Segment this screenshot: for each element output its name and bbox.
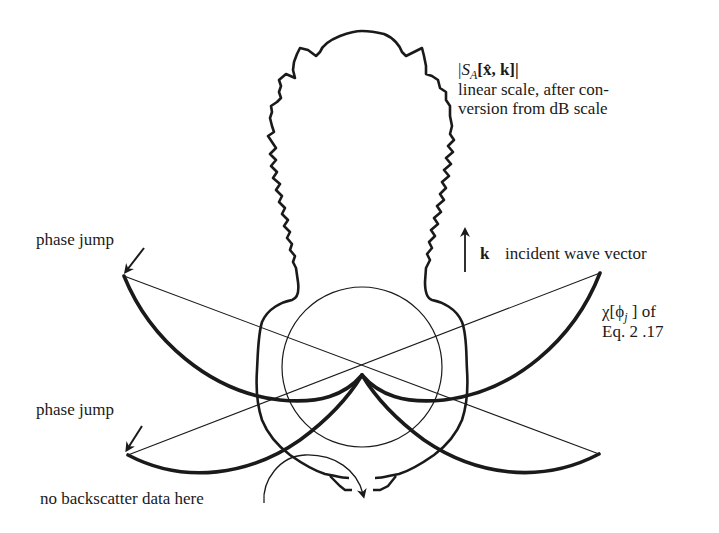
magnitude-args: [x̂, k]| <box>477 60 519 79</box>
chi-curve-upper-right <box>362 273 600 401</box>
chi-label-line2: Eq. 2 .17 <box>602 322 663 341</box>
phase-jump-lower-label: phase jump <box>36 400 114 419</box>
chi-curve-lower-right <box>362 375 599 473</box>
phase-jump-upper-arrow <box>127 248 144 270</box>
k-symbol: k <box>480 244 489 263</box>
no-backscatter-label: no backscatter data here <box>40 489 204 508</box>
reference-circle <box>282 287 442 447</box>
scattering-magnitude-lobe <box>257 31 468 478</box>
chi-phi: χ[ϕ <box>602 302 624 321</box>
scattering-diagram <box>0 0 719 533</box>
chi-of: ] of <box>628 302 656 321</box>
k-label: incident wave vector <box>505 244 647 263</box>
magnitude-S: S <box>461 60 470 79</box>
scale-note-line2: version from dB scale <box>458 99 608 118</box>
scale-note-line1: linear scale, after con- <box>458 80 609 99</box>
phase-jump-upper-label: phase jump <box>36 230 114 249</box>
phase-jump-lower-arrow <box>128 426 142 448</box>
